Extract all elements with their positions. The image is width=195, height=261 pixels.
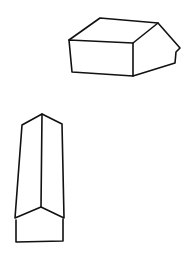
house-horizontal-sketch	[69, 18, 180, 76]
sketch-canvas	[0, 0, 195, 261]
house-vertical-sketch	[15, 114, 64, 242]
